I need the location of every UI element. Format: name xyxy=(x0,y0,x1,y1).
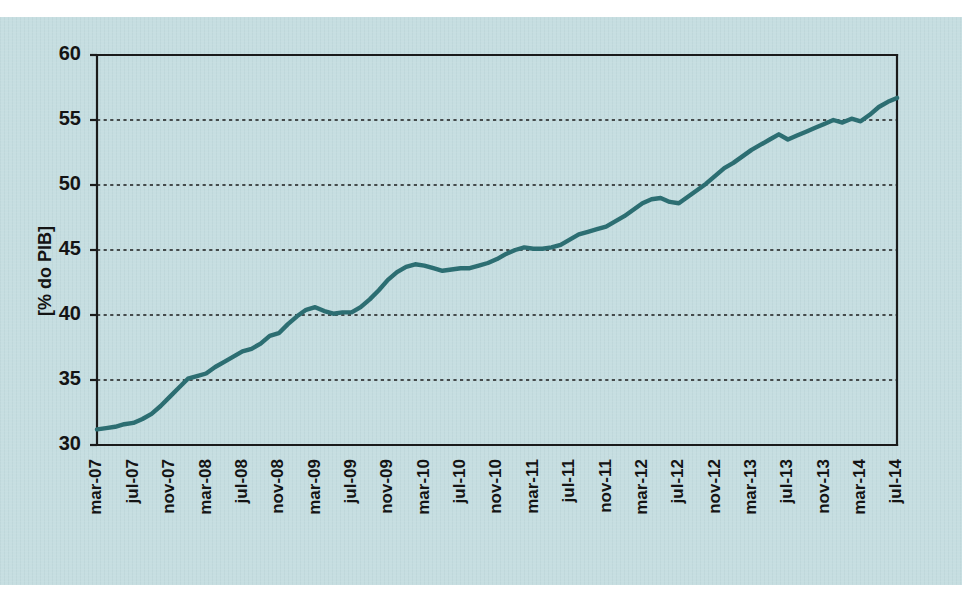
x-tick-label: nov-09 xyxy=(377,459,396,514)
x-tick-label: mar-11 xyxy=(523,459,542,514)
x-tick-label: jul-11 xyxy=(559,459,578,503)
x-tick-label: mar-10 xyxy=(414,459,433,515)
x-tick-label: nov-08 xyxy=(268,459,287,514)
x-tick-label: jul-07 xyxy=(123,459,142,504)
y-axis-tick-labels: 30354045505560 xyxy=(59,42,81,454)
line-chart: 30354045505560 mar-07jul-07nov-07mar-08j… xyxy=(0,0,979,582)
x-tick-label: jul-12 xyxy=(668,459,687,504)
y-tick-label: 30 xyxy=(59,432,81,454)
x-tick-label: jul-14 xyxy=(886,458,905,504)
y-tick-label: 35 xyxy=(59,367,81,389)
x-tick-label: jul-10 xyxy=(450,459,469,504)
y-tick-label: 60 xyxy=(59,42,81,64)
y-tick-label: 55 xyxy=(59,107,81,129)
x-tick-label: jul-09 xyxy=(341,459,360,504)
y-tick-label: 40 xyxy=(59,302,81,324)
x-tick-label: jul-08 xyxy=(232,459,251,504)
x-tick-label: nov-10 xyxy=(486,459,505,514)
x-tick-label: mar-09 xyxy=(305,459,324,515)
y-axis-title-text: [% do PIB] xyxy=(35,226,55,316)
x-tick-label: nov-12 xyxy=(705,459,724,514)
x-tick-label: nov-11 xyxy=(596,459,615,513)
y-tick-label: 45 xyxy=(59,237,81,259)
x-tick-label: nov-13 xyxy=(814,459,833,514)
y-tick-label: 50 xyxy=(59,172,81,194)
x-tick-label: nov-07 xyxy=(159,459,178,514)
grid-lines xyxy=(97,120,897,380)
x-tick-label: jul-13 xyxy=(777,459,796,504)
x-tick-label: mar-12 xyxy=(632,459,651,515)
x-tick-label: mar-14 xyxy=(850,458,869,514)
x-tick-label: mar-08 xyxy=(196,459,215,515)
y-axis-title: [% do PIB] xyxy=(35,226,55,316)
x-axis-tick-labels: mar-07jul-07nov-07mar-08jul-08nov-08mar-… xyxy=(86,458,905,514)
x-tick-label: mar-13 xyxy=(741,459,760,515)
x-tick-label: mar-07 xyxy=(86,459,105,515)
